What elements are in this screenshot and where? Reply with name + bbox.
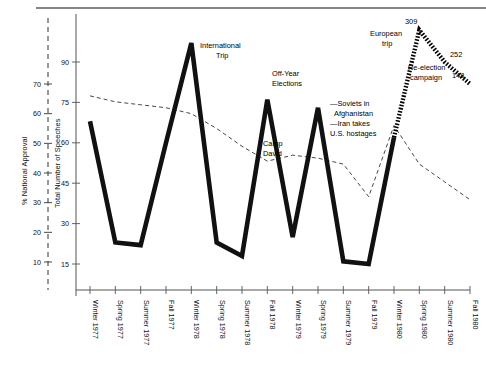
annotation-line: European — [370, 29, 402, 38]
annotation-line: U.S. hostages — [330, 129, 377, 138]
approval-tick-label: 30 — [33, 198, 41, 207]
x-tick-label: Spring 1977 — [116, 300, 125, 339]
x-tick-label: Spring 1979 — [319, 300, 328, 339]
x-tick-label: Fall 1977 — [167, 300, 176, 330]
x-axis: Winter 1977Spring 1977Summer 1977Fall 19… — [76, 286, 480, 345]
speeches-line — [90, 43, 394, 264]
speeches-axis-title: Total Number of Speeches — [53, 118, 62, 208]
speeches-series — [90, 43, 394, 264]
x-tick-label: Summer 1977 — [142, 300, 151, 345]
annotation-line: —Soviets in — [330, 99, 369, 108]
speeches-tick-label: 30 — [61, 219, 69, 228]
x-tick-label: Fall 1980 — [471, 300, 480, 330]
campaign-line — [394, 30, 470, 137]
annotation-international-trip: International Trip — [200, 41, 241, 60]
x-tick-label: Fall 1978 — [268, 300, 277, 330]
annotation-line: —Iran takes — [330, 119, 370, 128]
approval-tick-label: 20 — [33, 228, 41, 237]
speeches-tick-label: 60 — [61, 138, 69, 147]
annotation-line: International — [200, 41, 241, 50]
speeches-tick-label: 15 — [61, 260, 69, 269]
annotation-line: Camp — [263, 139, 283, 148]
x-tick-label: Fall 1979 — [370, 300, 379, 330]
x-tick-label: Winter 1979 — [294, 300, 303, 339]
annotation-line: David — [263, 149, 282, 158]
value-label-252: 252 — [450, 50, 462, 59]
value-label-309: 309 — [405, 17, 417, 26]
approval-tick-label: 50 — [33, 139, 41, 148]
annotation-soviets-iran: —Soviets in Afghanistan —Iran takes U.S.… — [330, 99, 377, 138]
x-tick-label: Spring 1980 — [420, 300, 429, 339]
x-tick-label: Summer 1978 — [243, 300, 252, 345]
annotation-line: Re-election — [408, 63, 445, 72]
approval-tick-label: 60 — [33, 109, 41, 118]
approval-tick-label: 70 — [33, 80, 41, 89]
x-tick-label: Summer 1979 — [344, 300, 353, 345]
annotation-line: campaign — [410, 73, 442, 82]
x-tick-label: Spring 1978 — [218, 300, 227, 339]
approval-axis-ticks: 10203040506070 — [33, 80, 52, 267]
speeches-axis: Total Number of Speeches 153045607590 — [53, 14, 80, 296]
annotation-line: Elections — [272, 79, 302, 88]
speeches-axis-ticks: 153045607590 — [61, 58, 80, 269]
x-tick-label: Winter 1977 — [91, 300, 100, 339]
annotation-off-year-elections: Off-Year Elections — [272, 69, 302, 88]
annotation-european-trip: European trip — [370, 29, 402, 48]
x-tick-label: Winter 1980 — [395, 300, 404, 339]
approval-tick-label: 10 — [33, 258, 41, 267]
x-tick-label: Winter 1978 — [192, 300, 201, 339]
speeches-tick-label: 45 — [61, 179, 69, 188]
x-axis-labels: Winter 1977Spring 1977Summer 1977Fall 19… — [91, 300, 480, 345]
speeches-tick-label: 75 — [61, 98, 69, 107]
annotation-re-election-campaign: Re-election campaign — [408, 63, 445, 82]
annotation-line: trip — [382, 39, 392, 48]
approval-tick-label: 40 — [33, 169, 41, 178]
chart-figure: % National Approval 10203040506070 Total… — [0, 0, 486, 376]
speeches-tick-label: 90 — [61, 58, 69, 67]
approval-axis: % National Approval 10203040506070 — [20, 18, 52, 290]
annotation-camp-david: Camp David — [263, 139, 283, 158]
chart-canvas: % National Approval 10203040506070 Total… — [0, 0, 486, 376]
campaign-highlight-series — [394, 30, 470, 137]
x-tick-label: Summer 1980 — [446, 300, 455, 345]
annotation-line: Off-Year — [272, 69, 300, 78]
approval-axis-title: % National Approval — [20, 136, 29, 205]
value-label-148: 148 — [452, 71, 464, 80]
annotation-line: Trip — [216, 51, 228, 60]
annotation-line: Afghanistan — [334, 109, 373, 118]
